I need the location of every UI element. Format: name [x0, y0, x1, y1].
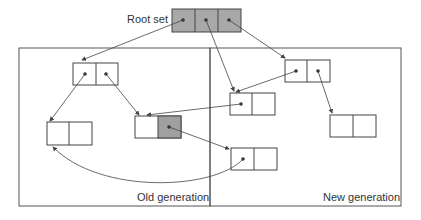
old-generation-label: Old generation	[137, 191, 209, 203]
edge-e-to-c	[147, 104, 241, 115]
edge-root-to-a	[82, 20, 183, 60]
edge-a-to-c	[106, 74, 139, 115]
diagram-canvas	[0, 0, 421, 220]
root-set-label: Root set	[127, 13, 168, 25]
object-node-d	[285, 60, 330, 82]
object-node-e	[230, 93, 275, 115]
object-node-g	[231, 148, 277, 170]
reference-arrows	[50, 20, 332, 183]
edge-a-to-b	[50, 74, 85, 121]
edge-root-to-d	[229, 20, 285, 58]
object-node-b	[47, 122, 92, 145]
object-node-c	[135, 116, 181, 138]
edge-g-to-b	[53, 147, 243, 183]
new-generation-label: New generation	[323, 191, 400, 203]
object-node-f	[330, 115, 376, 137]
